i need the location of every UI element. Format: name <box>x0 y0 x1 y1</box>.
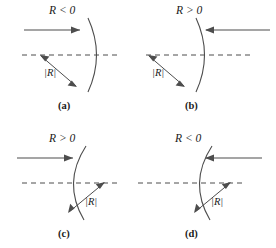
sign-label-c-text: R > 0 <box>49 132 75 144</box>
sign-label-b-text: R > 0 <box>176 4 202 16</box>
sign-label-c: R > 0 <box>49 133 75 145</box>
sign-label-a: R < 0 <box>49 5 75 17</box>
radius-label-c: |R| <box>85 197 97 208</box>
incident-ray-arrowhead <box>71 27 80 34</box>
incident-ray-arrowhead <box>205 27 214 34</box>
radius-label-c-text: |R| <box>85 196 97 207</box>
radius-label-a-text: |R| <box>44 67 56 78</box>
panel-a: R < 0 |R| (a) <box>0 0 138 124</box>
sign-label-a-text: R < 0 <box>49 4 75 16</box>
panel-b-drawing <box>138 0 276 124</box>
panel-d-drawing <box>138 124 276 248</box>
radius-arrowhead-surface <box>68 81 77 88</box>
radius-label-d: |R| <box>211 197 223 208</box>
incident-ray-arrowhead <box>64 155 73 162</box>
radius-label-a: |R| <box>44 68 56 79</box>
radius-arrowhead-surface <box>194 204 201 213</box>
panel-caption-b-text: (b) <box>185 100 198 111</box>
panel-caption-c: (c) <box>58 229 70 240</box>
radius-arrowhead-center <box>40 55 49 62</box>
radius-label-b-text: |R| <box>152 67 164 78</box>
sign-label-b: R > 0 <box>176 5 202 17</box>
sign-label-d-text: R < 0 <box>175 132 201 144</box>
radius-arrowhead-center <box>148 55 157 62</box>
panel-d: R < 0 |R| (d) <box>138 124 276 248</box>
panel-caption-d-text: (d) <box>185 228 198 239</box>
panel-caption-b: (b) <box>185 101 198 112</box>
radius-arrowhead-surface <box>176 81 185 88</box>
radius-label-b: |R| <box>152 68 164 79</box>
sign-label-d: R < 0 <box>175 133 201 145</box>
panel-caption-d: (d) <box>185 229 198 240</box>
panel-c: R > 0 |R| (c) <box>0 124 138 248</box>
optics-radius-sign-figure: R < 0 |R| (a) R > 0 |R| (b) <box>0 0 276 248</box>
panel-caption-a-text: (a) <box>58 100 70 111</box>
panel-caption-c-text: (c) <box>58 228 70 239</box>
radius-label-d-text: |R| <box>211 196 223 207</box>
panel-caption-a: (a) <box>58 101 70 112</box>
panel-b: R > 0 |R| (b) <box>138 0 276 124</box>
radius-arrowhead-surface <box>68 204 75 213</box>
